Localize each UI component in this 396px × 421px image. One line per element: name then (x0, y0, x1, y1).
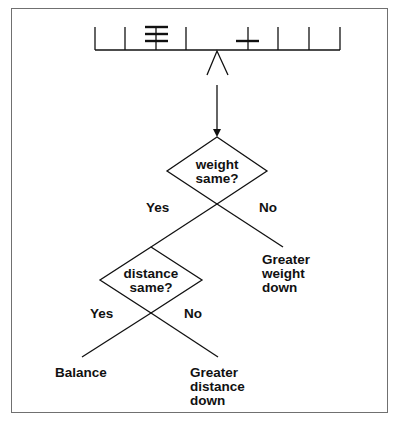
decision2-no-label: No (184, 307, 202, 321)
decision2-line2: same? (111, 281, 191, 295)
decision2-text: distance same? (111, 267, 191, 295)
decision1-line2: same? (187, 172, 247, 186)
outcome2-line1: Greater (190, 366, 245, 380)
outcome-greater-weight-down: Greater weight down (262, 253, 310, 295)
decision1-yes-label: Yes (146, 201, 169, 215)
outcome-balance: Balance (55, 366, 107, 380)
outcome1-line2: weight (262, 267, 310, 281)
decision1-text: weight same? (187, 158, 247, 186)
diagram-canvas (0, 0, 396, 421)
outcome1-line3: down (262, 281, 310, 295)
arrowhead-icon (213, 129, 221, 137)
decision2-line1: distance (111, 267, 191, 281)
decision1-no-label: No (259, 201, 277, 215)
decision1-line1: weight (187, 158, 247, 172)
outcome1-line1: Greater (262, 253, 310, 267)
weights (145, 27, 259, 41)
outcome2-line2: distance (190, 380, 245, 394)
outcome2-line3: down (190, 394, 245, 408)
balance-beam (95, 27, 340, 50)
decision2-yes-label: Yes (90, 307, 113, 321)
fulcrum-icon (207, 51, 228, 75)
outcome-greater-distance-down: Greater distance down (190, 366, 245, 408)
